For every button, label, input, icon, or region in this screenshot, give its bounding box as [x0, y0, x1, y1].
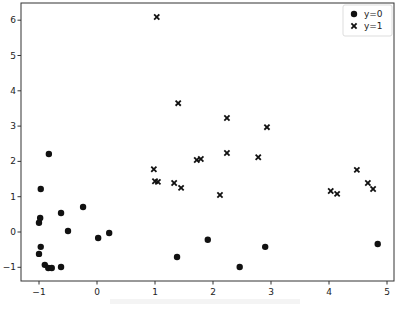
circle-marker-icon	[36, 220, 42, 226]
x-marker-icon	[264, 125, 269, 130]
circle-marker-icon	[38, 244, 44, 250]
circle-marker-icon	[262, 244, 268, 250]
circle-marker-icon	[106, 230, 112, 236]
y-tick-label: 3	[10, 121, 16, 131]
axis-ticks: −1012345−10123456	[3, 15, 390, 297]
x-marker-icon	[179, 185, 184, 190]
x-marker-icon	[224, 115, 229, 120]
legend-label: y=0	[364, 9, 383, 19]
circle-marker-icon	[351, 11, 357, 17]
circle-marker-icon	[65, 228, 71, 234]
legend: y=0y=1	[343, 5, 392, 36]
x-marker-icon	[151, 167, 156, 172]
circle-marker-icon	[49, 265, 55, 271]
scatter-chart: −1012345−10123456 y=0y=1	[0, 0, 399, 309]
x-marker-icon	[328, 188, 333, 193]
circle-marker-icon	[95, 235, 101, 241]
circle-marker-icon	[174, 254, 180, 260]
x-tick-label: 0	[94, 287, 100, 297]
circle-marker-icon	[80, 204, 86, 210]
y-tick-label: 2	[10, 156, 16, 166]
y-tick-label: 5	[10, 51, 16, 61]
circle-marker-icon	[36, 251, 42, 257]
x-marker-icon	[172, 180, 177, 185]
x-marker-icon	[335, 191, 340, 196]
data-points	[36, 14, 381, 271]
x-marker-icon	[154, 14, 159, 19]
circle-marker-icon	[46, 151, 52, 157]
y-tick-label: −1	[3, 262, 16, 272]
circle-marker-icon	[205, 237, 211, 243]
series-y=1	[151, 14, 375, 197]
faint-caption	[110, 299, 300, 304]
series-y=0	[36, 151, 381, 271]
y-tick-label: 1	[10, 192, 16, 202]
circle-marker-icon	[58, 264, 64, 270]
x-tick-label: 1	[152, 287, 158, 297]
circle-marker-icon	[236, 264, 242, 270]
circle-marker-icon	[375, 241, 381, 247]
y-tick-label: 6	[10, 15, 16, 25]
circle-marker-icon	[58, 210, 64, 216]
x-tick-label: −1	[32, 287, 45, 297]
x-marker-icon	[176, 101, 181, 106]
x-marker-icon	[217, 192, 222, 197]
x-tick-label: 2	[210, 287, 216, 297]
x-marker-icon	[224, 150, 229, 155]
circle-marker-icon	[38, 186, 44, 192]
x-marker-icon	[256, 155, 261, 160]
y-tick-label: 4	[10, 86, 16, 96]
x-marker-icon	[370, 186, 375, 191]
x-tick-label: 4	[326, 287, 332, 297]
x-tick-label: 3	[268, 287, 274, 297]
legend-label: y=1	[364, 21, 383, 31]
x-marker-icon	[365, 180, 370, 185]
x-tick-label: 5	[384, 287, 390, 297]
y-tick-label: 0	[10, 227, 16, 237]
x-marker-icon	[354, 167, 359, 172]
